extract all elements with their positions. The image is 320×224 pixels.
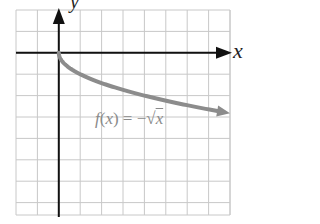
y-axis-label: y [70,0,79,13]
function-variable: x [105,109,113,128]
function-label: f(x) = −√x [95,109,163,129]
x-axis-label: x [233,38,243,64]
function-radicand: x [156,109,164,128]
function-equals-neg-sqrt: ) = −√ [113,109,156,128]
function-curve [59,53,222,112]
curve-arrowhead-icon [216,106,230,117]
